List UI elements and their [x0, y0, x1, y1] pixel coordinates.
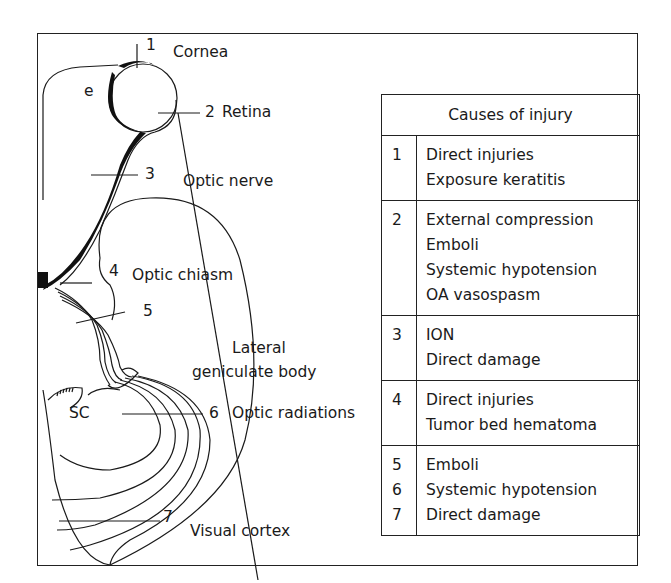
marker-3: 3: [145, 165, 155, 183]
orbit-outline: [43, 65, 118, 200]
label-lgb-line2: geniculate body: [192, 363, 317, 381]
row-number: 5 6 7: [382, 446, 417, 535]
table-row: 3 ION Direct damage: [382, 316, 639, 381]
label-sc: SC: [69, 404, 90, 422]
label-visual-cortex: Visual cortex: [190, 522, 290, 540]
marker-7: 7: [163, 508, 173, 526]
table-row: 1 Direct injuries Exposure keratitis: [382, 136, 639, 201]
label-e: e: [84, 82, 94, 100]
label-cornea: Cornea: [173, 43, 228, 61]
label-retina: Retina: [222, 103, 271, 121]
label-lgb-line1: Lateral: [232, 339, 286, 357]
table-row: 2 External compression Emboli Systemic h…: [382, 201, 639, 316]
label-optic-radiations: Optic radiations: [232, 404, 355, 422]
marker-5: 5: [143, 302, 153, 320]
row-causes: Direct injuries Tumor bed hematoma: [417, 381, 597, 445]
marker-1: 1: [146, 36, 156, 54]
row-number: 1: [382, 136, 417, 200]
row-number: 3: [382, 316, 417, 380]
marker-6: 6: [209, 404, 219, 422]
label-optic-nerve: Optic nerve: [183, 172, 273, 190]
row-number: 2: [382, 201, 417, 315]
optic-nerve-shape: [43, 72, 146, 290]
causes-table: Causes of injury 1 Direct injuries Expos…: [381, 94, 640, 536]
row-causes: External compression Emboli Systemic hyp…: [417, 201, 597, 315]
label-optic-chiasm: Optic chiasm: [132, 266, 233, 284]
row-causes: Direct injuries Exposure keratitis: [417, 136, 565, 200]
table-row: 4 Direct injuries Tumor bed hematoma: [382, 381, 639, 446]
table-row: 5 6 7 Emboli Systemic hypotension Direct…: [382, 446, 639, 535]
table-title: Causes of injury: [382, 95, 639, 136]
marker-2: 2: [205, 103, 215, 121]
marker-5-line: [76, 312, 125, 323]
row-causes: ION Direct damage: [417, 316, 541, 380]
row-causes: Emboli Systemic hypotension Direct damag…: [417, 446, 597, 535]
marker-4: 4: [109, 262, 119, 280]
row-number: 4: [382, 381, 417, 445]
chiasm-mark: [38, 272, 48, 288]
